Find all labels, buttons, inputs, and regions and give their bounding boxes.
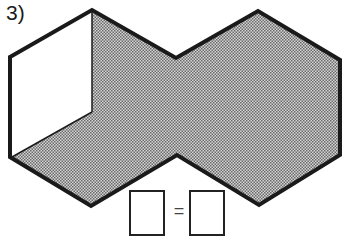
- right-answer-box[interactable]: [189, 190, 225, 236]
- equals-sign: =: [171, 202, 187, 220]
- left-answer-box[interactable]: [129, 190, 165, 236]
